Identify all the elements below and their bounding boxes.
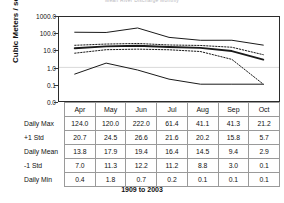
table-cell: 120.0 [95, 117, 126, 131]
table-cell: 0.1 [187, 173, 218, 187]
chart-page: Mean River Discharge Monthly Cubic Meter… [0, 0, 284, 203]
column-header-may: May [95, 103, 126, 117]
y-tick-mark [54, 50, 58, 51]
table-cell: 0.2 [157, 173, 188, 187]
table-cell: 20.2 [187, 131, 218, 145]
table-cell: 1.8 [95, 173, 126, 187]
table-cell: 21.2 [249, 117, 280, 131]
table-cell: 26.6 [126, 131, 157, 145]
series-line-daily-max [75, 28, 264, 45]
table-corner-cell [22, 103, 65, 117]
table-cell: 15.8 [218, 131, 249, 145]
row-label: +1 Std [22, 131, 65, 145]
table-row: Daily Min0.41.80.70.20.10.10.1 [22, 173, 280, 187]
table-row: -1 Std7.011.312.211.28.83.00.1 [22, 159, 280, 173]
table-cell: 24.5 [95, 131, 126, 145]
table-cell: 9.4 [218, 145, 249, 159]
table-cell: 124.0 [65, 117, 96, 131]
chart-lines [59, 17, 279, 101]
table-cell: 21.6 [157, 131, 188, 145]
column-header-aug: Aug [187, 103, 218, 117]
table-cell: 8.8 [187, 159, 218, 173]
table-cell: 2.9 [249, 145, 280, 159]
plot-area [58, 16, 280, 102]
table-cell: 41.1 [187, 117, 218, 131]
y-axis-title: Cubic Meters / second [11, 0, 20, 67]
table-row: Daily Mean13.817.919.416.414.59.42.9 [22, 145, 280, 159]
y-tick-mark [54, 33, 58, 34]
series-line-daily-min [75, 63, 264, 84]
table-cell: 11.3 [95, 159, 126, 173]
table-cell: 0.1 [218, 173, 249, 187]
column-header-oct: Oct [249, 103, 280, 117]
y-axis-tick-labels: 1000.0100.010.01.00.10.0 [22, 16, 56, 102]
table-cell: 13.8 [65, 145, 96, 159]
column-header-apr: Apr [65, 103, 96, 117]
column-header-jul: Jul [157, 103, 188, 117]
table-cell: 61.4 [157, 117, 188, 131]
table-cell: 0.7 [126, 173, 157, 187]
table-cell: 16.4 [157, 145, 188, 159]
row-label: Daily Min [22, 173, 65, 187]
row-label: -1 Std [22, 159, 65, 173]
column-header-jun: Jun [126, 103, 157, 117]
table-cell: 7.0 [65, 159, 96, 173]
table-cell: 3.0 [218, 159, 249, 173]
data-table: AprMayJunJulAugSepOctDaily Max124.0120.0… [22, 102, 280, 187]
table-header-row: AprMayJunJulAugSepOct [22, 103, 280, 117]
chart-footer-period: 1909 to 2003 [0, 186, 284, 193]
y-tick-mark [54, 85, 58, 86]
table-cell: 41.3 [218, 117, 249, 131]
table-cell: 5.7 [249, 131, 280, 145]
table-cell: 11.2 [157, 159, 188, 173]
table-row: +1 Std20.724.526.621.620.215.85.7 [22, 131, 280, 145]
table-cell: 0.1 [249, 173, 280, 187]
table-row: Daily Max124.0120.0222.061.441.141.321.2 [22, 117, 280, 131]
row-label: Daily Mean [22, 145, 65, 159]
table-cell: 17.9 [95, 145, 126, 159]
table-cell: 222.0 [126, 117, 157, 131]
column-header-sep: Sep [218, 103, 249, 117]
chart-title: Mean River Discharge Monthly [0, 0, 284, 4]
table-cell: 20.7 [65, 131, 96, 145]
table-cell: 12.2 [126, 159, 157, 173]
y-tick-mark [54, 16, 58, 17]
series-line-1-std [75, 43, 264, 54]
table-cell: 0.4 [65, 173, 96, 187]
data-table-body: AprMayJunJulAugSepOctDaily Max124.0120.0… [22, 103, 280, 187]
table-cell: 14.5 [187, 145, 218, 159]
y-tick-mark [54, 68, 58, 69]
table-cell: 0.1 [249, 159, 280, 173]
table-cell: 19.4 [126, 145, 157, 159]
y-tick-mark [54, 102, 58, 103]
row-label: Daily Max [22, 117, 65, 131]
